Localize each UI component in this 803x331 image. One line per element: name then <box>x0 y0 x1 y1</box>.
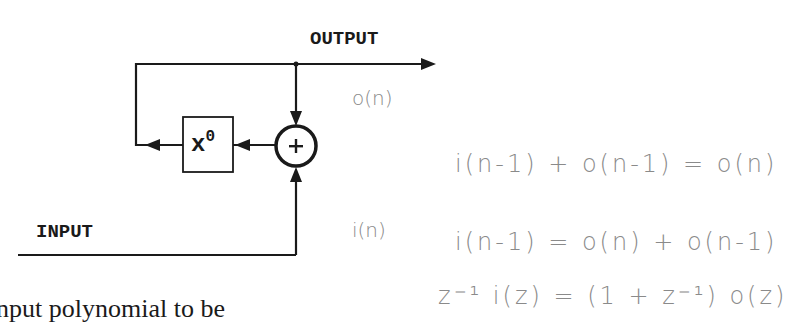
delay-base: x <box>191 131 205 158</box>
down-arrow-icon <box>290 111 302 126</box>
input-label: INPUT <box>36 221 93 243</box>
output-label: OUTPUT <box>310 28 378 50</box>
delay-box-label: x0 <box>191 128 215 158</box>
delay-exponent: 0 <box>205 128 215 146</box>
handwritten-equation-1: i(n-1) + o(n-1) = o(n) <box>455 150 777 178</box>
handwritten-equation-2: i(n-1) = o(n) + o(n-1) <box>455 228 777 256</box>
input-signal-annotation: i(n) <box>352 218 386 242</box>
output-arrow-icon <box>421 58 436 70</box>
left-arrow-icon <box>235 139 250 151</box>
handwritten-equation-3: z⁻¹ i(z) = (1 + z⁻¹) o(z) <box>438 282 787 310</box>
feedback-arrow-icon <box>145 139 160 151</box>
up-arrow-icon <box>290 167 302 182</box>
caption-text: nput polynomial to be <box>0 294 225 324</box>
output-signal-annotation: o(n) <box>352 86 393 110</box>
plus-v <box>295 139 297 153</box>
junction-dot <box>294 62 299 67</box>
